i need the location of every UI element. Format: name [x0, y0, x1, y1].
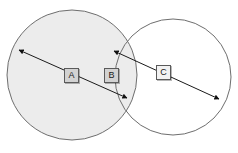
diagram-canvas: A B C: [0, 0, 238, 153]
region-label-a-text: A: [68, 71, 74, 80]
region-label-c-text: C: [160, 68, 167, 77]
region-label-a: A: [64, 68, 79, 83]
region-label-b: B: [104, 68, 119, 83]
diagram-vector-layer: [0, 0, 238, 153]
region-label-b-text: B: [108, 71, 114, 80]
region-label-c: C: [156, 65, 171, 80]
